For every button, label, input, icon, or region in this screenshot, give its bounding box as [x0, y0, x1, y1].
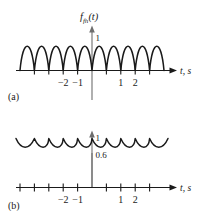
- panel-a-x-axis-arrowhead: [170, 68, 178, 74]
- panel-b-y-axis-arrowhead: [89, 131, 95, 138]
- panel-a-tick-label-2: 2: [133, 77, 138, 88]
- panel-a-peak-label: 1: [96, 33, 101, 43]
- panel-a-plot: ffh(t) 1 −2 −1 1 2 t, s (a): [0, 0, 201, 106]
- panel-b-tick-label-2: 2: [133, 194, 138, 205]
- panel-b-caption: (b): [8, 200, 20, 211]
- panel-b: 1 0.6 −2 −1 1 2 t, s (b): [0, 105, 201, 211]
- panel-a-caption: (a): [8, 91, 19, 103]
- panel-a: ffh(t) 1 −2 −1 1 2 t, s (a): [0, 0, 201, 106]
- panel-b-x-axis-arrowhead: [170, 185, 178, 191]
- panel-a-tick-label-neg2: −2: [58, 77, 69, 88]
- figure-rectifier-waveforms: ffh(t) 1 −2 −1 1 2 t, s (a): [0, 0, 201, 211]
- panel-b-tick-label-neg1: −1: [72, 194, 83, 205]
- panel-a-function-label: ffh(t): [80, 11, 99, 25]
- panel-a-tick-label-neg1: −1: [72, 77, 83, 88]
- panel-a-x-axis-label: t, s: [180, 66, 191, 76]
- panel-b-plot: 1 0.6 −2 −1 1 2 t, s (b): [0, 105, 201, 211]
- panel-b-peak-label: 1: [96, 133, 101, 143]
- panel-b-x-axis-label: t, s: [180, 183, 191, 193]
- panel-b-offset-label: 0.6: [96, 150, 108, 160]
- panel-b-tick-label-1: 1: [118, 194, 123, 205]
- panel-a-tick-label-1: 1: [118, 77, 123, 88]
- panel-a-y-axis-arrowhead: [89, 26, 95, 33]
- panel-b-tick-label-neg2: −2: [58, 194, 69, 205]
